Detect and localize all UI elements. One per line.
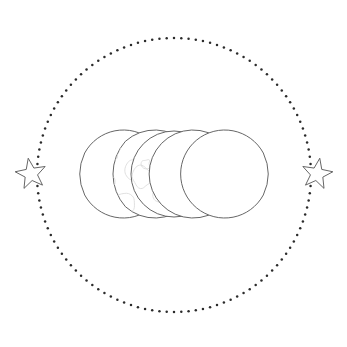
border-dot [151, 309, 154, 312]
border-dot [209, 42, 212, 45]
border-dot [289, 101, 292, 104]
border-dot [209, 306, 212, 309]
border-dot [158, 38, 161, 41]
crescent-moon-body [181, 130, 268, 218]
border-dot [75, 78, 78, 81]
border-dot [173, 37, 176, 40]
border-dot [44, 220, 47, 223]
border-dot [47, 227, 50, 230]
border-dot [276, 264, 279, 267]
border-dot [40, 206, 43, 209]
border-dot [144, 308, 147, 311]
border-dot [61, 95, 64, 98]
border-dot [42, 134, 45, 137]
border-dot [173, 311, 176, 314]
border-dot [271, 78, 274, 81]
border-dot [57, 101, 60, 104]
border-dot [281, 258, 284, 261]
border-dot [80, 73, 83, 76]
border-dot [248, 60, 251, 63]
border-dot [223, 46, 226, 49]
border-dot [302, 220, 305, 223]
border-dot [165, 311, 168, 314]
border-dot [236, 295, 239, 298]
border-dot [276, 84, 279, 87]
border-dot [309, 192, 312, 195]
border-dot [242, 292, 245, 295]
border-dot [116, 49, 119, 52]
border-dot [202, 40, 205, 43]
border-dot [50, 114, 53, 117]
border-dot [70, 264, 73, 267]
border-dot [285, 253, 288, 256]
border-dot [223, 301, 226, 304]
border-dot [97, 60, 100, 63]
moon-element-crescent-waxing-outer-right: Waxing Crescent (outer right) [181, 130, 268, 218]
border-dot [254, 64, 257, 67]
border-dot [309, 185, 312, 188]
border-dot [137, 42, 140, 45]
border-dot [53, 107, 56, 110]
border-dot [180, 311, 183, 314]
border-dot [42, 213, 45, 216]
border-dot [123, 301, 126, 304]
border-dot [97, 288, 100, 291]
border-dot [40, 141, 43, 144]
border-dot [75, 269, 78, 272]
border-dot [85, 279, 88, 282]
border-dot [50, 234, 53, 237]
border-dot [47, 120, 50, 123]
border-dot [37, 192, 40, 195]
border-dot [260, 68, 263, 71]
border-dot [44, 127, 47, 130]
moon-element-star-left: Left Star [15, 158, 45, 188]
border-dot [110, 52, 113, 55]
border-dot [236, 52, 239, 55]
border-dot [38, 148, 41, 151]
border-dot [158, 310, 161, 313]
border-dot [187, 310, 190, 313]
border-dot [123, 46, 126, 49]
border-dot [242, 56, 245, 59]
border-dot [165, 37, 168, 40]
border-dot [271, 269, 274, 272]
border-dot [260, 279, 263, 282]
border-dot [36, 185, 39, 188]
border-dot [306, 206, 309, 209]
star-shape [15, 158, 45, 188]
border-dot [65, 89, 68, 92]
artwork-svg: Left StarWaning Crescent (outer left)Wan… [0, 0, 347, 347]
border-dot [144, 40, 147, 43]
border-dot [309, 163, 312, 166]
border-dot [151, 38, 154, 41]
border-dot [38, 199, 41, 202]
border-dot [91, 64, 94, 67]
border-dot [91, 284, 94, 287]
border-dot [195, 38, 198, 41]
border-dot [307, 148, 310, 151]
border-dot [85, 68, 88, 71]
border-dot [307, 199, 310, 202]
border-dot [289, 246, 292, 249]
border-dot [302, 127, 305, 130]
border-dot [36, 163, 39, 166]
border-dot [296, 234, 299, 237]
border-dot [248, 288, 251, 291]
border-dot [195, 309, 198, 312]
border-dot [266, 73, 269, 76]
border-dot [103, 56, 106, 59]
border-dot [216, 44, 219, 47]
border-dot [254, 284, 257, 287]
border-dot [309, 156, 312, 159]
border-dot [180, 37, 183, 40]
border-dot [61, 253, 64, 256]
border-dot [65, 258, 68, 261]
border-dot [187, 38, 190, 41]
border-dot [53, 240, 56, 243]
border-dot [304, 213, 307, 216]
border-dot [281, 89, 284, 92]
border-dot [202, 308, 205, 311]
border-dot [216, 304, 219, 307]
border-dot [37, 156, 40, 159]
border-dot [266, 274, 269, 277]
